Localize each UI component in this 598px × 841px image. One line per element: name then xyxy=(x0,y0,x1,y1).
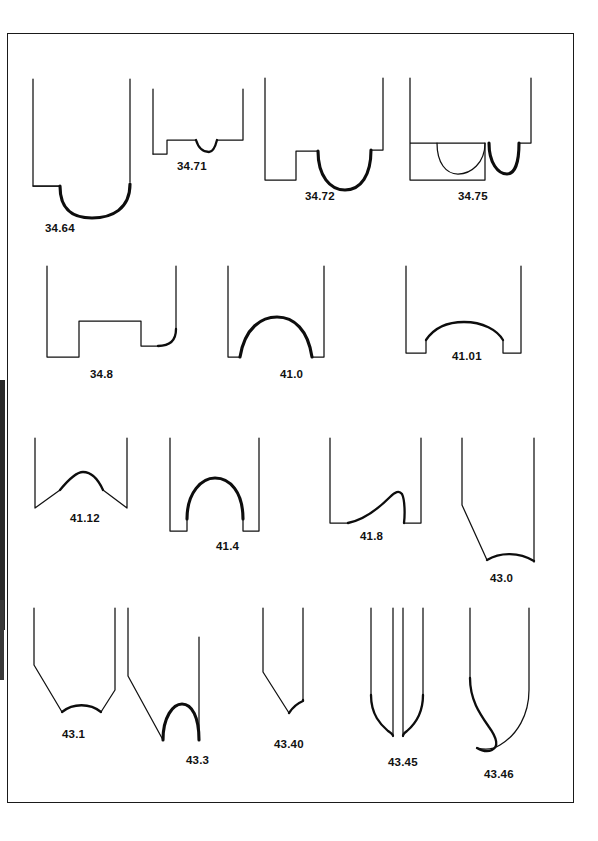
profile-label-34-71: 34.71 xyxy=(177,160,207,172)
profile-shape-34-72 xyxy=(265,78,383,190)
profile-label-43-46: 43.46 xyxy=(484,768,514,780)
profile-shape-43-1 xyxy=(34,608,115,712)
profile-shape-34-75 xyxy=(410,78,531,180)
profile-shape-41-01 xyxy=(406,266,521,353)
profiles-svg xyxy=(0,0,598,841)
profile-label-41-01: 41.01 xyxy=(452,350,482,362)
profile-shape-34-64 xyxy=(33,79,130,218)
profile-label-43-45: 43.45 xyxy=(388,756,418,768)
profile-shape-34-8 xyxy=(47,266,176,357)
profile-label-34-75: 34.75 xyxy=(458,190,488,202)
profile-label-43-3: 43.3 xyxy=(186,754,209,766)
profile-shape-41-8 xyxy=(330,438,421,523)
profile-label-41-8: 41.8 xyxy=(360,530,383,542)
profile-shape-43-3 xyxy=(128,608,199,740)
profile-label-43-1: 43.1 xyxy=(62,728,85,740)
profile-label-34-64: 34.64 xyxy=(45,222,75,234)
profile-shape-34-71 xyxy=(153,89,243,154)
profile-label-43-0: 43.0 xyxy=(490,572,513,584)
profile-shape-43-46 xyxy=(470,608,529,751)
profile-label-43-40: 43.40 xyxy=(274,738,304,750)
profile-shape-43-40 xyxy=(263,608,303,713)
profile-label-41-4: 41.4 xyxy=(216,540,239,552)
profile-shape-41-4 xyxy=(170,438,259,531)
profile-shape-43-45 xyxy=(371,608,423,736)
profile-label-41-12: 41.12 xyxy=(70,512,100,524)
profile-shape-41-0 xyxy=(228,266,324,357)
profile-label-34-72: 34.72 xyxy=(305,190,335,202)
profile-label-41-0: 41.0 xyxy=(280,368,303,380)
profiles-figure: 34.64 34.71 34.72 34.75 34.8 41.0 41.01 … xyxy=(0,0,598,841)
profile-shape-43-0 xyxy=(462,438,534,562)
profile-label-34-8: 34.8 xyxy=(90,368,113,380)
profile-shape-41-12 xyxy=(35,438,127,508)
plate-page: 34.64 34.71 34.72 34.75 34.8 41.0 41.01 … xyxy=(0,0,598,841)
